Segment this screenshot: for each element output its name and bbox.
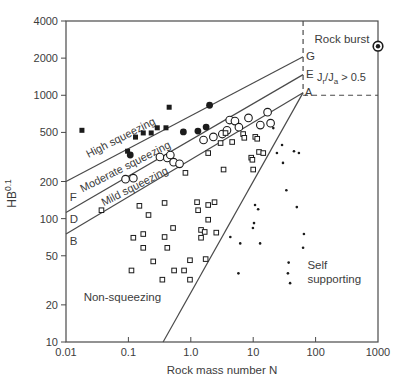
marker-filled-square bbox=[141, 130, 146, 135]
marker-filled-circle bbox=[180, 128, 187, 135]
x-tick-label: 100 bbox=[306, 346, 324, 358]
y-tick-label: 500 bbox=[40, 126, 58, 138]
marker-open-circle bbox=[267, 119, 275, 127]
marker-filled-square bbox=[155, 125, 160, 130]
marker-filled-square bbox=[163, 125, 168, 130]
marker-open-square bbox=[188, 277, 193, 282]
marker-open-square bbox=[206, 151, 211, 156]
marker-dot bbox=[229, 236, 232, 239]
marker-open-circle bbox=[210, 133, 218, 141]
marker-open-square bbox=[171, 226, 176, 231]
marker-open-circle bbox=[122, 175, 130, 183]
marker-open-square bbox=[242, 136, 247, 141]
line-label-B: B bbox=[70, 235, 78, 247]
line-label-G: G bbox=[306, 50, 315, 62]
line-label-E: E bbox=[306, 68, 314, 80]
marker-dot bbox=[281, 144, 284, 147]
marker-open-circle bbox=[235, 123, 243, 131]
marker-dot bbox=[252, 227, 255, 230]
line-label-D: D bbox=[70, 213, 78, 225]
marker-open-circle bbox=[156, 153, 164, 161]
line-label-F: F bbox=[70, 191, 77, 203]
marker-open-square bbox=[160, 277, 165, 282]
squeezing-classification-chart: 0.010.11.0101001000102050100200500100020… bbox=[0, 0, 401, 389]
marker-open-square bbox=[195, 200, 200, 205]
marker-open-square bbox=[199, 235, 204, 240]
marker-dot bbox=[287, 261, 290, 264]
marker-dot bbox=[254, 204, 257, 207]
marker-open-square bbox=[99, 208, 104, 213]
marker-open-square bbox=[203, 257, 208, 262]
marker-dot bbox=[285, 189, 288, 192]
marker-dot bbox=[276, 152, 279, 155]
marker-dot bbox=[237, 272, 240, 275]
non-squeezing-label: Non-squeezing bbox=[84, 291, 161, 303]
x-tick-label: 1000 bbox=[366, 346, 390, 358]
marker-open-square bbox=[162, 201, 167, 206]
marker-open-square bbox=[129, 268, 134, 273]
x-axis-title: Rock mass number N bbox=[167, 364, 278, 376]
x-tick-label: 10 bbox=[247, 346, 259, 358]
marker-open-square bbox=[196, 208, 201, 213]
marker-bullseye-center bbox=[376, 44, 380, 48]
marker-filled-square bbox=[149, 130, 154, 135]
marker-open-circle bbox=[264, 108, 272, 116]
marker-dot bbox=[293, 150, 296, 153]
series-rock-burst-case bbox=[373, 41, 383, 51]
y-tick-label: 20 bbox=[46, 299, 58, 311]
x-tick-label: 0.01 bbox=[55, 346, 76, 358]
marker-open-circle bbox=[130, 174, 138, 182]
marker-dot bbox=[287, 272, 290, 275]
x-tick-label: 1.0 bbox=[183, 346, 198, 358]
marker-open-square bbox=[261, 151, 266, 156]
marker-open-square bbox=[183, 171, 188, 176]
marker-open-circle bbox=[167, 151, 175, 159]
marker-dot bbox=[298, 152, 301, 155]
marker-open-square bbox=[188, 258, 193, 263]
self-supporting-label: Selfsupporting bbox=[307, 259, 361, 285]
marker-open-square bbox=[165, 246, 170, 251]
marker-open-square bbox=[206, 217, 211, 222]
jr-ja-condition-label: Jr/Ja > 0.5 bbox=[317, 71, 366, 86]
marker-open-square bbox=[221, 167, 226, 172]
marker-dot bbox=[289, 282, 292, 285]
y-tick-label: 50 bbox=[46, 250, 58, 262]
marker-filled-square bbox=[167, 105, 172, 110]
marker-dot bbox=[282, 162, 285, 165]
y-axis-title: HB0.1 bbox=[3, 179, 19, 208]
marker-dot bbox=[303, 233, 306, 236]
marker-open-square bbox=[206, 203, 211, 208]
marker-dot bbox=[296, 206, 299, 209]
marker-open-square bbox=[223, 131, 228, 136]
marker-open-square bbox=[255, 136, 260, 141]
marker-dot bbox=[239, 242, 242, 245]
marker-open-square bbox=[172, 268, 177, 273]
marker-open-square bbox=[202, 230, 207, 235]
marker-open-square bbox=[141, 232, 146, 237]
marker-filled-circle bbox=[127, 152, 134, 159]
marker-filled-square bbox=[133, 135, 138, 140]
marker-dot bbox=[253, 222, 256, 225]
marker-open-square bbox=[141, 246, 146, 251]
line-label-A: A bbox=[305, 86, 313, 98]
marker-open-square bbox=[214, 230, 219, 235]
marker-open-circle bbox=[257, 121, 265, 129]
marker-filled-circle bbox=[195, 128, 202, 135]
marker-filled-circle bbox=[203, 124, 210, 131]
marker-open-square bbox=[212, 200, 217, 205]
marker-open-circle bbox=[200, 136, 208, 144]
rock-burst-label: Rock burst bbox=[315, 33, 371, 45]
marker-dot bbox=[302, 247, 305, 250]
y-tick-label: 100 bbox=[40, 213, 58, 225]
marker-open-square bbox=[146, 213, 151, 218]
marker-dot bbox=[257, 208, 260, 211]
marker-dot bbox=[272, 127, 275, 130]
marker-open-square bbox=[162, 235, 167, 240]
marker-open-square bbox=[230, 140, 235, 145]
series-self-supporting-cases bbox=[229, 127, 305, 285]
marker-open-square bbox=[131, 235, 136, 240]
x-tick-label: 0.1 bbox=[121, 346, 136, 358]
y-tick-label: 4000 bbox=[34, 15, 58, 27]
y-tick-label: 2000 bbox=[34, 52, 58, 64]
marker-open-circle bbox=[176, 160, 184, 168]
